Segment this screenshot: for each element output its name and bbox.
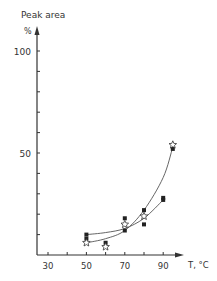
- x-tick-labels: 30507090: [43, 261, 169, 271]
- fit-curves: [86, 147, 172, 243]
- y-axis-title: Peak area: [21, 10, 65, 20]
- fit-curve: [86, 147, 172, 243]
- x-tick-label: 90: [158, 261, 169, 271]
- x-axis-title: T, °C: [187, 260, 209, 270]
- square-marker-icon: [161, 198, 165, 202]
- star-marker-icon: [121, 220, 129, 227]
- x-tick-label: 70: [119, 261, 130, 271]
- axes: [37, 32, 178, 255]
- y-tick-label: 100: [14, 47, 31, 57]
- y-tick-label: 50: [20, 149, 32, 159]
- star-marker-icon: [169, 141, 177, 148]
- y-axis-arrow-icon: [35, 26, 40, 35]
- x-tick-label: 50: [81, 261, 92, 271]
- y-tick-labels: 50100: [14, 47, 31, 159]
- chart: 50100 30507090 Peak area % T, °C: [0, 0, 217, 281]
- x-tick-label: 30: [43, 261, 54, 271]
- square-marker-icon: [142, 222, 146, 226]
- square-marker-icon: [123, 229, 127, 233]
- star-marker-icon: [102, 243, 110, 250]
- x-axis-arrow-icon: [175, 253, 184, 258]
- y-axis-unit: %: [24, 27, 32, 36]
- square-marker-icon: [84, 233, 88, 237]
- star-marker-icon: [83, 239, 91, 246]
